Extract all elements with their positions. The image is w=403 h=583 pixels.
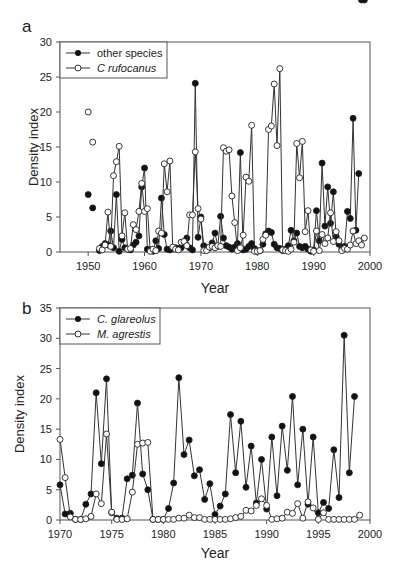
x-tick-label: 1995 bbox=[306, 528, 330, 540]
data-point-filled bbox=[158, 195, 164, 201]
data-point-filled bbox=[322, 223, 328, 229]
data-point-open bbox=[161, 161, 167, 167]
data-point-filled bbox=[228, 412, 234, 418]
y-tick-label: 10 bbox=[40, 176, 52, 188]
data-point-open bbox=[357, 512, 363, 518]
data-point-filled bbox=[142, 165, 148, 171]
data-point-open bbox=[313, 228, 319, 234]
data-point-filled bbox=[192, 80, 198, 86]
data-point-open bbox=[268, 123, 274, 129]
data-point-open bbox=[350, 228, 356, 234]
y-axis-b: 05101520253035 bbox=[40, 302, 60, 526]
data-point-open bbox=[229, 193, 235, 199]
y-tick-label: 5 bbox=[46, 484, 52, 496]
data-point-filled bbox=[181, 452, 187, 458]
x-tick-label: 1985 bbox=[203, 528, 227, 540]
data-point-open bbox=[288, 246, 294, 252]
data-point-open bbox=[195, 206, 201, 212]
data-point-open bbox=[259, 496, 265, 502]
legend-item-other-species: other species bbox=[97, 47, 163, 59]
data-point-open bbox=[98, 501, 104, 507]
data-point-filled bbox=[347, 215, 353, 221]
x-tick-label: 1990 bbox=[301, 260, 325, 272]
data-point-filled bbox=[212, 230, 218, 236]
data-point-open bbox=[328, 210, 334, 216]
x-tick-label: 2000 bbox=[358, 528, 382, 540]
x-axis-b: 1970197519801985199019952000 bbox=[48, 520, 382, 540]
data-point-open bbox=[290, 510, 296, 516]
data-point-open bbox=[294, 141, 300, 147]
data-point-open bbox=[246, 178, 252, 184]
data-point-filled bbox=[300, 426, 306, 432]
data-point-open bbox=[263, 232, 269, 238]
x-tick-label: 1980 bbox=[151, 528, 175, 540]
data-point-open bbox=[85, 109, 91, 115]
data-point-open bbox=[295, 501, 301, 507]
data-point-filled bbox=[243, 484, 249, 490]
data-point-filled bbox=[116, 248, 122, 254]
y-tick-label: 20 bbox=[40, 393, 52, 405]
data-point-filled bbox=[288, 227, 294, 233]
data-point-open bbox=[116, 143, 122, 149]
data-point-filled bbox=[93, 390, 99, 396]
data-point-open bbox=[302, 229, 308, 235]
data-point-filled bbox=[284, 467, 290, 473]
data-point-filled bbox=[344, 208, 350, 214]
data-point-open bbox=[297, 175, 303, 181]
data-point-open bbox=[291, 239, 297, 245]
x-tick-label: 1980 bbox=[245, 260, 269, 272]
data-point-open bbox=[253, 502, 259, 508]
data-point-open bbox=[139, 180, 145, 186]
data-point-filled bbox=[104, 376, 110, 382]
data-point-open bbox=[274, 143, 280, 149]
open-circle-marker-icon bbox=[75, 331, 81, 337]
data-point-filled bbox=[279, 423, 285, 429]
data-point-filled bbox=[259, 456, 265, 462]
y-tick-label: 10 bbox=[40, 453, 52, 465]
panel-b: b 05101520253035 19701975198019851990199… bbox=[12, 299, 382, 561]
y-tick-label: 0 bbox=[46, 246, 52, 258]
legend-a: other species C rufocanus bbox=[60, 42, 167, 78]
data-point-filled bbox=[346, 470, 352, 476]
data-point-open bbox=[330, 239, 336, 245]
data-point-open bbox=[105, 209, 111, 215]
data-point-open bbox=[129, 489, 135, 495]
data-point-open bbox=[127, 246, 133, 252]
data-point-filled bbox=[186, 437, 192, 443]
data-point-open bbox=[90, 139, 96, 145]
data-point-open bbox=[164, 189, 170, 195]
data-point-filled bbox=[321, 499, 327, 505]
data-point-open bbox=[257, 248, 263, 254]
data-point-open bbox=[158, 230, 164, 236]
data-point-open bbox=[311, 248, 317, 254]
x-tick-label: 2000 bbox=[358, 260, 382, 272]
data-point-filled bbox=[176, 375, 182, 381]
data-point-open bbox=[93, 491, 99, 497]
y-axis-a: 051015202530 bbox=[40, 36, 60, 258]
data-point-open bbox=[237, 245, 243, 251]
data-point-open bbox=[111, 173, 117, 179]
data-point-filled bbox=[136, 233, 142, 239]
data-point-filled bbox=[217, 503, 223, 509]
data-point-open bbox=[145, 439, 151, 445]
legend-item-c-rufocanus: C rufocanus bbox=[97, 62, 157, 74]
data-point-open bbox=[305, 499, 311, 505]
data-point-filled bbox=[352, 393, 358, 399]
y-axis-label-b: Density index bbox=[12, 374, 27, 453]
data-point-open bbox=[300, 515, 306, 521]
y-tick-label: 20 bbox=[40, 106, 52, 118]
y-tick-label: 30 bbox=[40, 36, 52, 48]
y-tick-label: 30 bbox=[40, 332, 52, 344]
data-point-filled bbox=[207, 481, 213, 487]
x-tick-label: 1950 bbox=[76, 260, 100, 272]
data-point-open bbox=[361, 235, 367, 241]
data-point-filled bbox=[350, 115, 356, 121]
legend-item-c-glareolus: C. glareolus bbox=[97, 313, 156, 325]
data-point-filled bbox=[238, 418, 244, 424]
data-point-filled bbox=[218, 213, 224, 219]
data-point-filled bbox=[313, 208, 319, 214]
data-point-filled bbox=[330, 189, 336, 195]
data-point-open bbox=[232, 220, 238, 226]
x-tick-label: 1990 bbox=[254, 528, 278, 540]
data-point-open bbox=[279, 515, 285, 521]
